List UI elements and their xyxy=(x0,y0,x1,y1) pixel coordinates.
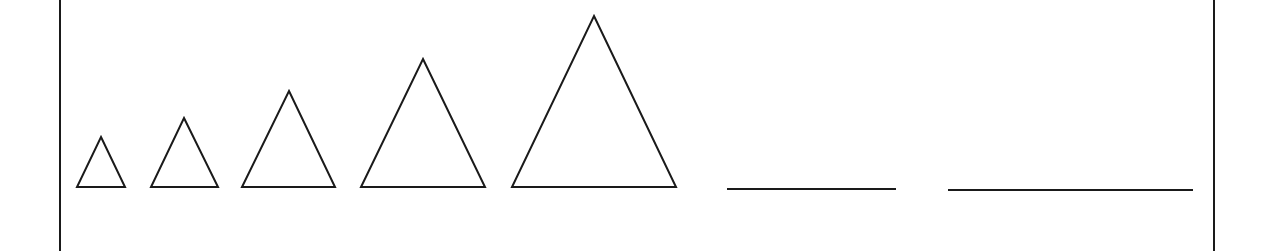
pattern-diagram xyxy=(0,0,1268,251)
answer-blanks xyxy=(727,189,1193,190)
triangle-1 xyxy=(77,137,125,187)
diagram-canvas xyxy=(0,0,1268,251)
triangle-2 xyxy=(151,118,218,187)
triangle-4 xyxy=(361,59,485,187)
triangle-3 xyxy=(242,91,335,187)
triangle-5 xyxy=(512,16,676,187)
triangle-sequence xyxy=(77,16,676,187)
